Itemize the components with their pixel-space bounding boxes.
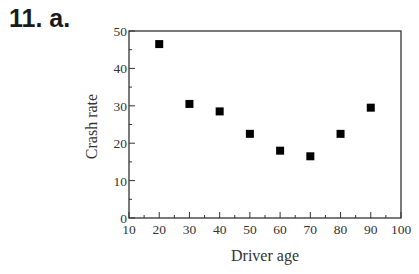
data-point — [337, 130, 345, 138]
data-point — [367, 104, 375, 112]
data-point — [306, 152, 314, 160]
x-tick-label: 60 — [273, 222, 287, 237]
scatter-chart: 10203040506070809010001020304050Driver a… — [0, 0, 419, 274]
x-tick-label: 80 — [334, 222, 348, 237]
x-tick-label: 20 — [152, 222, 166, 237]
data-point — [276, 147, 284, 155]
x-axis-label: Driver age — [231, 247, 299, 265]
y-tick-label: 10 — [114, 174, 128, 189]
y-axis-label: Crash rate — [83, 94, 100, 159]
data-point — [246, 130, 254, 138]
y-tick-label: 20 — [114, 136, 128, 151]
x-tick-label: 90 — [364, 222, 378, 237]
x-tick-label: 30 — [183, 222, 197, 237]
y-tick-label: 50 — [114, 24, 128, 39]
data-point — [216, 107, 224, 115]
x-tick-label: 50 — [243, 222, 257, 237]
x-tick-label: 40 — [213, 222, 227, 237]
plot-frame — [129, 31, 401, 218]
y-tick-label: 0 — [120, 211, 127, 226]
data-point — [185, 100, 193, 108]
data-point — [155, 40, 163, 48]
x-tick-label: 70 — [304, 222, 318, 237]
y-tick-label: 30 — [114, 99, 128, 114]
y-tick-label: 40 — [114, 61, 128, 76]
x-tick-label: 100 — [391, 222, 412, 237]
